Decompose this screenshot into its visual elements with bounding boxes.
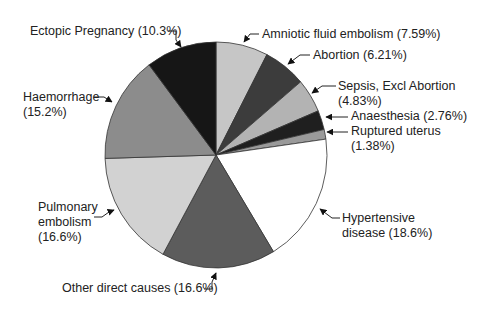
label-hypertensive: Hypertensive disease (18.6%) — [342, 211, 432, 241]
label-pulmonary: Pulmonary embolism (16.6%) — [38, 200, 98, 245]
label-ruptured-line1: Ruptured uterus — [351, 124, 441, 139]
label-pulmonary-line3: (16.6%) — [38, 230, 98, 245]
label-ruptured: Ruptured uterus (1.38%) — [351, 124, 441, 154]
leader-abortion — [288, 55, 310, 64]
label-pulmonary-line2: embolism — [38, 215, 98, 230]
label-abortion-text: Abortion (6.21%) — [313, 48, 407, 62]
label-ectopic: Ectopic Pregnancy (10.3%) — [30, 24, 181, 39]
label-anaesthesia: Anaesthesia (2.76%) — [351, 109, 467, 124]
label-sepsis: Sepsis, Excl Abortion (4.83%) — [338, 79, 455, 109]
label-hypertensive-line1: Hypertensive — [342, 211, 432, 226]
label-haemorrhage-line1: Haemorrhage — [23, 90, 99, 105]
label-anaesthesia-text: Anaesthesia (2.76%) — [351, 109, 467, 123]
pie-slices — [105, 42, 327, 268]
label-amniotic: Amniotic fluid embolism (7.59%) — [262, 27, 441, 42]
label-pulmonary-line1: Pulmonary — [38, 200, 98, 215]
label-ectopic-text: Ectopic Pregnancy (10.3%) — [30, 24, 181, 38]
label-amniotic-text: Amniotic fluid embolism (7.59%) — [262, 27, 441, 41]
label-ruptured-line2: (1.38%) — [351, 139, 441, 154]
label-abortion: Abortion (6.21%) — [313, 48, 407, 63]
label-haemorrhage: Haemorrhage (15.2%) — [23, 90, 99, 120]
leader-hypertensive — [320, 209, 340, 218]
pie-chart — [0, 0, 481, 309]
leader-sepsis — [312, 86, 336, 93]
label-sepsis-line2: (4.83%) — [338, 94, 455, 109]
label-hypertensive-line2: disease (18.6%) — [342, 226, 432, 241]
label-haemorrhage-line2: (15.2%) — [23, 105, 99, 120]
leader-amniotic — [244, 34, 259, 42]
label-sepsis-line1: Sepsis, Excl Abortion — [338, 79, 455, 94]
label-other-text: Other direct causes (16.6%) — [62, 281, 218, 295]
label-other: Other direct causes (16.6%) — [62, 281, 218, 296]
